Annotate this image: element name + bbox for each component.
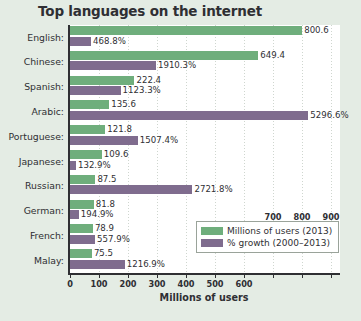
chart-container: Top languages on the internet English:80… bbox=[0, 0, 361, 321]
bar-growth bbox=[70, 37, 91, 46]
x-axis-tick bbox=[70, 273, 71, 278]
bar-value-growth: 1123.3% bbox=[123, 85, 161, 95]
bar-growth bbox=[70, 210, 79, 219]
bar-users bbox=[70, 175, 95, 184]
category-label: Russian: bbox=[0, 180, 64, 191]
bar-users bbox=[70, 26, 302, 35]
bar-value-growth: 194.9% bbox=[81, 209, 114, 219]
bar-value-growth: 5296.6% bbox=[310, 110, 348, 120]
category-label: German: bbox=[0, 205, 64, 216]
bar-value-growth: 468.8% bbox=[93, 36, 126, 46]
bar-value-users: 87.5 bbox=[97, 174, 116, 184]
bar-value-growth: 132.9% bbox=[78, 160, 111, 170]
x-axis-tick bbox=[99, 273, 100, 278]
bar-growth bbox=[70, 235, 95, 244]
legend-swatch-users-icon bbox=[201, 227, 223, 235]
bar-users bbox=[70, 76, 134, 85]
x-axis-tick bbox=[273, 273, 274, 278]
chart-legend: Millions of users (2013) % growth (2000–… bbox=[196, 221, 339, 253]
legend-label-growth: % growth (2000–2013) bbox=[227, 238, 330, 248]
bar-value-growth: 1507.4% bbox=[140, 135, 178, 145]
bar-users bbox=[70, 100, 109, 109]
x-axis-tick-label: 300 bbox=[148, 279, 165, 289]
bar-value-users: 649.4 bbox=[260, 50, 285, 60]
bar-value-users: 81.8 bbox=[96, 199, 115, 209]
category-label: Portuguese: bbox=[0, 131, 64, 142]
x-axis-tick-label: 400 bbox=[177, 279, 194, 289]
chart-row: Chinese:649.41910.3% bbox=[0, 50, 361, 75]
legend-label-users: Millions of users (2013) bbox=[227, 226, 332, 236]
bar-users bbox=[70, 249, 92, 258]
bar-value-growth: 1216.9% bbox=[127, 259, 165, 269]
bar-value-growth: 557.9% bbox=[97, 234, 130, 244]
x-axis-title: Millions of users bbox=[68, 292, 340, 303]
chart-title: Top languages on the internet bbox=[0, 3, 300, 19]
x-axis-tick bbox=[244, 273, 245, 278]
bar-value-users: 800.6 bbox=[304, 25, 329, 35]
x-axis-tick bbox=[331, 273, 332, 278]
category-label: Arabic: bbox=[0, 106, 64, 117]
category-label: English: bbox=[0, 32, 64, 43]
x-axis-tick bbox=[302, 273, 303, 278]
x-axis-tick-label: 200 bbox=[119, 279, 136, 289]
legend-item-users: Millions of users (2013) bbox=[201, 225, 332, 237]
bar-users bbox=[70, 51, 258, 60]
category-label: Chinese: bbox=[0, 56, 64, 67]
category-label: French: bbox=[0, 230, 64, 241]
bar-value-users: 75.5 bbox=[94, 248, 113, 258]
bar-growth bbox=[70, 260, 125, 269]
x-axis-tick-label: 600 bbox=[235, 279, 252, 289]
bar-growth bbox=[70, 185, 192, 194]
bar-value-users: 222.4 bbox=[136, 75, 161, 85]
chart-row: Arabic:135.65296.6% bbox=[0, 99, 361, 124]
x-axis-tick bbox=[128, 273, 129, 278]
chart-row: Russian:87.52721.8% bbox=[0, 174, 361, 199]
x-axis-tick-label: 500 bbox=[206, 279, 223, 289]
bar-growth bbox=[70, 136, 138, 145]
category-label: Malay: bbox=[0, 255, 64, 266]
legend-item-growth: % growth (2000–2013) bbox=[201, 237, 332, 249]
bar-users bbox=[70, 224, 93, 233]
category-label: Spanish: bbox=[0, 81, 64, 92]
bar-growth bbox=[70, 161, 76, 170]
x-axis-line bbox=[68, 273, 340, 275]
x-axis-tick-label: 100 bbox=[90, 279, 107, 289]
category-label: Japanese: bbox=[0, 156, 64, 167]
x-axis-tick bbox=[215, 273, 216, 278]
x-axis-tick bbox=[157, 273, 158, 278]
chart-row: Spanish:222.41123.3% bbox=[0, 75, 361, 100]
bar-growth bbox=[70, 111, 308, 120]
bar-value-users: 109.6 bbox=[104, 149, 129, 159]
bar-users bbox=[70, 150, 102, 159]
bar-value-users: 78.9 bbox=[95, 223, 114, 233]
chart-row: Portuguese:121.81507.4% bbox=[0, 124, 361, 149]
bar-growth bbox=[70, 86, 121, 95]
bar-users bbox=[70, 125, 105, 134]
bar-value-users: 135.6 bbox=[111, 99, 136, 109]
chart-row: English:800.6468.8% bbox=[0, 25, 361, 50]
legend-swatch-growth-icon bbox=[201, 239, 223, 247]
chart-row: Japanese:109.6132.9% bbox=[0, 149, 361, 174]
x-axis-tick bbox=[186, 273, 187, 278]
x-axis-tick-label: 0 bbox=[67, 279, 73, 289]
bar-value-growth: 2721.8% bbox=[194, 184, 232, 194]
bar-users bbox=[70, 200, 94, 209]
bar-value-growth: 1910.3% bbox=[158, 60, 196, 70]
bar-value-users: 121.8 bbox=[107, 124, 132, 134]
bar-growth bbox=[70, 61, 156, 70]
